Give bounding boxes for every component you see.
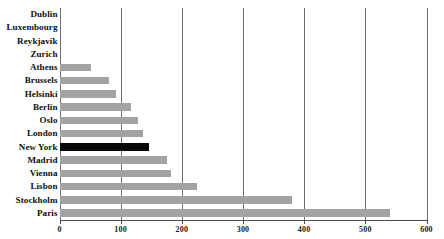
bar-berlin [60, 103, 132, 111]
category-label-athens: Athens [30, 61, 58, 74]
bar-row: New York [0, 141, 444, 154]
category-label-zurich: Zurich [30, 48, 57, 61]
bar-row: Vienna [0, 167, 444, 180]
bar-row: Zurich [0, 48, 444, 61]
category-label-berlin: Berlin [33, 101, 58, 114]
bar-paris [60, 209, 390, 217]
bar-row: Lisbon [0, 180, 444, 193]
category-label-new-york: New York [19, 141, 58, 154]
x-axis-tick [182, 220, 183, 224]
bar-row: Berlin [0, 101, 444, 114]
x-axis-tick [427, 220, 428, 224]
category-label-luxembourg: Luxembourg [6, 21, 57, 34]
bar-row: Madrid [0, 154, 444, 167]
bar-row: London [0, 127, 444, 140]
category-label-brussels: Brussels [25, 74, 58, 87]
bar-chart: 0100200300400500600 DublinLuxembourgReyk… [0, 0, 444, 239]
bar-row: Luxembourg [0, 21, 444, 34]
x-axis-tick [60, 220, 61, 224]
bar-athens [60, 64, 91, 72]
x-axis-tick [365, 220, 366, 224]
x-axis-tick [121, 220, 122, 224]
x-axis-tick-label: 500 [359, 225, 372, 235]
bar-row: Brussels [0, 74, 444, 87]
category-label-madrid: Madrid [27, 154, 57, 167]
bar-madrid [60, 156, 167, 164]
category-label-vienna: Vienna [30, 167, 58, 180]
bar-new-york [60, 143, 150, 151]
category-label-oslo: Oslo [40, 114, 58, 127]
x-axis-tick-label: 100 [114, 225, 127, 235]
bar-row: Oslo [0, 114, 444, 127]
bar-row: Stockholm [0, 194, 444, 207]
bar-oslo [60, 117, 138, 125]
category-label-paris: Paris [37, 207, 58, 220]
category-label-london: London [27, 127, 58, 140]
category-label-stockholm: Stockholm [16, 194, 58, 207]
bar-row: Athens [0, 61, 444, 74]
x-axis-tick-label: 200 [176, 225, 189, 235]
x-axis-tick [304, 220, 305, 224]
bar-row: Reykjavik [0, 35, 444, 48]
category-label-helsinki: Helsinki [25, 88, 58, 101]
bar-lisbon [60, 183, 197, 191]
bar-vienna [60, 170, 171, 178]
bar-row: Paris [0, 207, 444, 220]
category-label-lisbon: Lisbon [30, 180, 57, 193]
bar-row: Dublin [0, 8, 444, 21]
bar-helsinki [60, 90, 117, 98]
x-axis-tick-label: 600 [420, 225, 433, 235]
bar-brussels [60, 77, 110, 85]
x-axis-tick [243, 220, 244, 224]
bar-stockholm [60, 196, 292, 204]
category-label-dublin: Dublin [30, 8, 57, 21]
x-axis-tick-label: 0 [57, 225, 61, 235]
bar-row: Helsinki [0, 88, 444, 101]
x-axis-tick-label: 300 [237, 225, 250, 235]
x-axis-tick-label: 400 [298, 225, 311, 235]
bar-london [60, 130, 144, 138]
category-label-reykjavik: Reykjavik [17, 35, 57, 48]
